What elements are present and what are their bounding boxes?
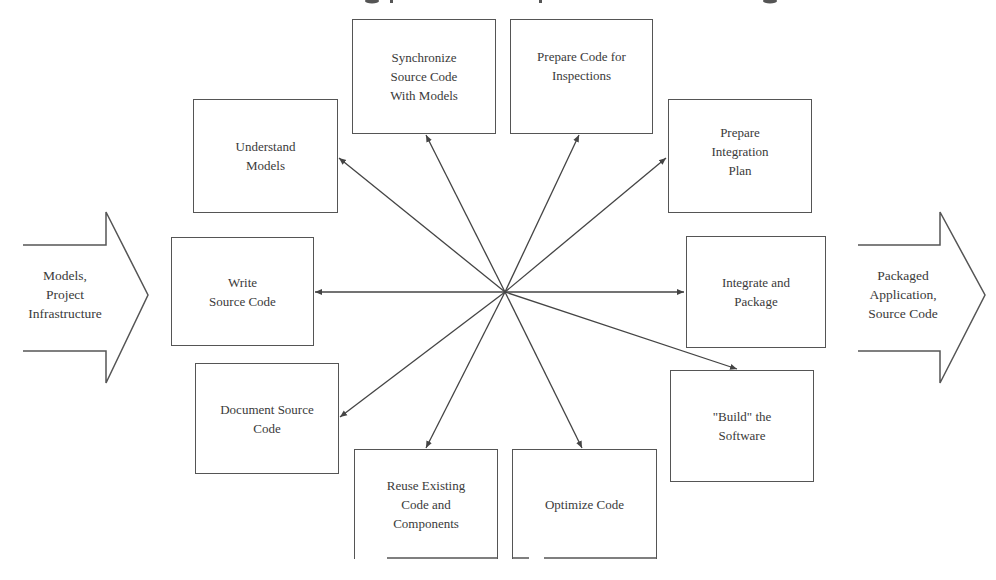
connector-optimize	[505, 292, 582, 448]
box-build-software: "Build" the Software	[670, 370, 814, 482]
connector-integration-plan	[505, 158, 666, 292]
activity-label: Reuse Existing Code and Components	[381, 476, 471, 533]
connector-understand-models	[339, 158, 505, 292]
box-document-source-code: Document Source Code	[195, 363, 339, 474]
connector-document	[340, 292, 505, 417]
connector-reuse	[426, 292, 505, 448]
box-write-source-code: Write Source Code	[171, 237, 314, 346]
activity-label: Optimize Code	[539, 495, 630, 514]
diagram-canvas	[0, 0, 996, 580]
activity-label: "Build" the Software	[707, 407, 778, 445]
box-synchronize-source-code: Synchronize Source Code With Models	[352, 19, 496, 134]
box-integrate-and-package: Integrate and Package	[686, 236, 826, 348]
connector-prepare-inspections	[505, 135, 579, 292]
box-optimize-code: Optimize Code	[512, 449, 657, 559]
box-understand-models: Understand Models	[193, 99, 338, 213]
activity-label: Prepare Integration Plan	[705, 123, 774, 180]
activity-label: Synchronize Source Code With Models	[384, 48, 464, 105]
activity-label: Integrate and Package	[716, 273, 796, 311]
box-prepare-code-inspections: Prepare Code for Inspections	[510, 19, 653, 134]
box-prepare-integration-plan: Prepare Integration Plan	[668, 99, 812, 213]
activity-label: Understand Models	[230, 137, 302, 175]
output-arrow-label: Packaged Application, Source Code	[853, 266, 953, 323]
input-arrow-label: Models, Project Infrastructure	[10, 266, 120, 323]
cropped-title-fragments	[365, 0, 777, 4]
box-reuse-existing-code: Reuse Existing Code and Components	[354, 449, 498, 559]
connector-synchronize	[426, 135, 505, 292]
activity-label: Prepare Code for Inspections	[531, 47, 632, 85]
activity-label: Document Source Code	[214, 400, 320, 438]
activity-label: Write Source Code	[203, 273, 282, 311]
